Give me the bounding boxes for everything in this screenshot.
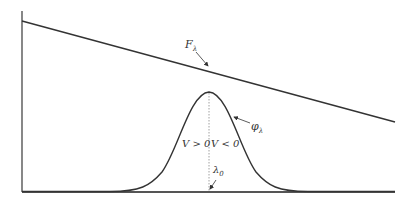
- svg-text:λ0: λ0: [212, 164, 224, 178]
- center-label-text: λ: [212, 164, 219, 175]
- profile-label-sub: λ: [258, 127, 263, 135]
- continuum-flux-line: [22, 21, 395, 122]
- continuum-label: Fλ: [184, 38, 208, 66]
- profile-label: φλ: [234, 117, 263, 135]
- profile-arrow-icon: [234, 117, 250, 123]
- diagram-canvas: Fλ φλ V > 0 V < 0 λ0: [0, 0, 411, 221]
- svg-text:φλ: φλ: [251, 120, 263, 135]
- svg-text:Fλ: Fλ: [184, 38, 197, 53]
- continuum-arrow-icon: [196, 52, 208, 66]
- center-label: λ0: [210, 164, 224, 189]
- center-label-sub: 0: [219, 170, 224, 178]
- left-region-label: V > 0: [182, 138, 211, 149]
- continuum-label-text: F: [184, 38, 193, 51]
- center-arrow-icon: [210, 180, 216, 189]
- right-region-label: V < 0: [211, 138, 240, 149]
